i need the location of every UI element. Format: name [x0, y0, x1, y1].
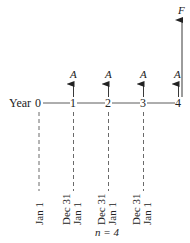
- annuity-arrows: [74, 84, 179, 97]
- period-label-1: 1: [70, 96, 76, 110]
- period-label-0: 0: [35, 96, 41, 110]
- period-label-3: 3: [140, 96, 146, 110]
- period-label-4: 4: [175, 96, 181, 110]
- n-label: n = 4: [95, 226, 119, 238]
- date-label-0-jan1: Jan 1: [33, 202, 45, 225]
- cash-flow-label-2: A: [104, 68, 112, 80]
- period-label-2: 2: [105, 96, 111, 110]
- date-label-3-jan1: Jan 1: [141, 202, 153, 225]
- future-value-label: F: [177, 4, 185, 16]
- cash-flow-label-1: A: [69, 68, 77, 80]
- date-label-1-jan1: Jan 1: [71, 202, 83, 225]
- cash-flow-diagram: Year 0 1 2 3 4 A A A A F Jan 1 Dec 31 Ja…: [0, 0, 190, 243]
- axis-label-year: Year: [9, 96, 31, 110]
- date-label-2-jan1: Jan 1: [106, 202, 118, 225]
- cash-flow-label-4: A: [173, 68, 181, 80]
- cash-flow-label-3: A: [139, 68, 147, 80]
- date-dashed-lines: [39, 112, 144, 191]
